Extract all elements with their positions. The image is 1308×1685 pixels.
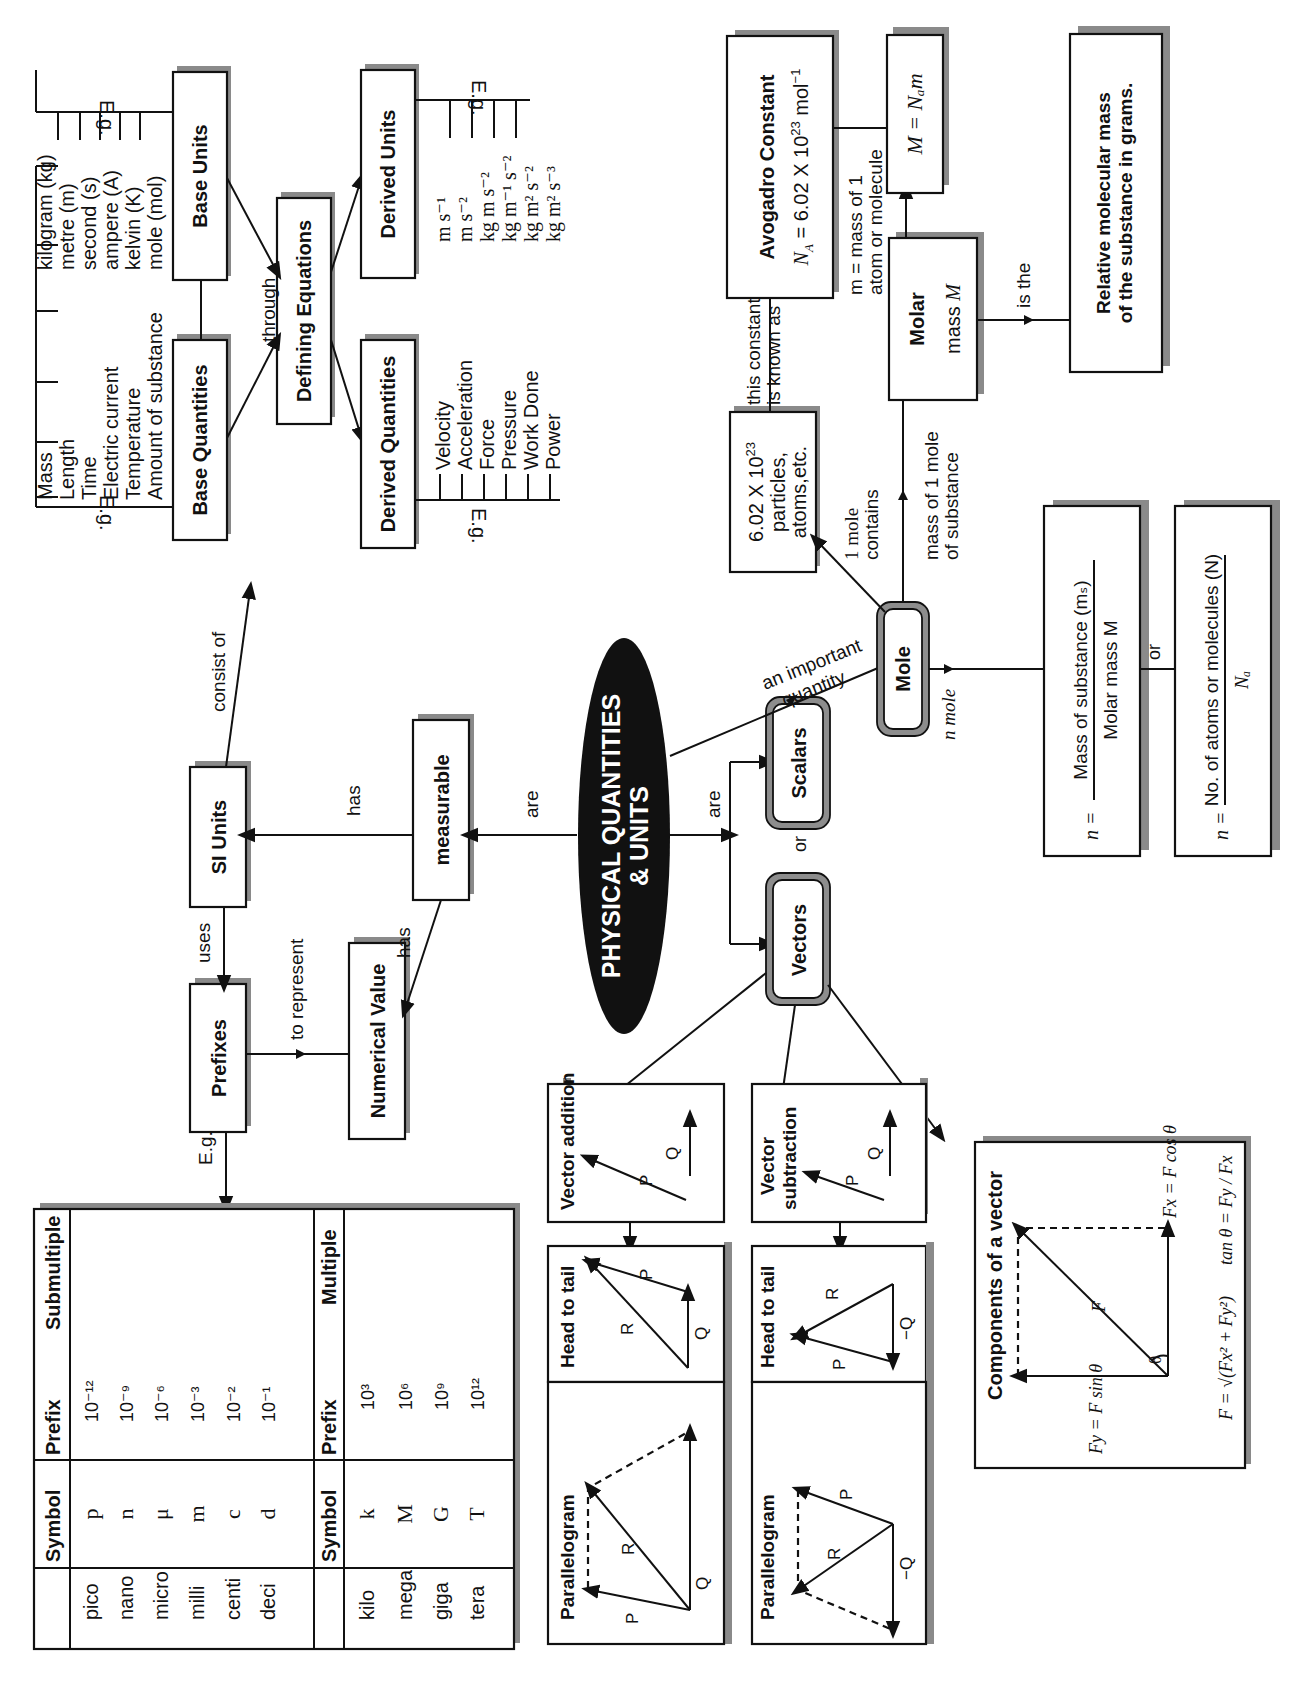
svg-text:Scalars: Scalars: [788, 727, 810, 798]
table-cell: c: [220, 1509, 245, 1519]
table-cell: μ: [148, 1508, 173, 1520]
svg-text:Derived Quantities: Derived Quantities: [377, 356, 399, 533]
svg-text:Parallelogram: Parallelogram: [557, 1494, 578, 1620]
svg-text:Vector: Vector: [757, 1136, 778, 1195]
central-title-line2: & UNITS: [625, 786, 653, 886]
edge-label-1-mole-1: 1 mole: [841, 508, 862, 560]
table-cell: deci: [257, 1583, 279, 1620]
node-measurable: measurable: [413, 714, 474, 900]
svg-text:Base Units: Base Units: [189, 124, 211, 227]
svg-text:M = Nₐm: M = Nₐm: [902, 73, 927, 155]
edge-label-or-formula: or: [1144, 644, 1164, 660]
svg-text:n mole: n mole: [938, 689, 959, 740]
svg-text:of the substance in grams.: of the substance in grams.: [1115, 83, 1136, 324]
table-cell: 10⁻³: [188, 1386, 208, 1422]
edge-label-m-mass-1: m = mass of 1: [845, 175, 866, 295]
svg-text:measurable: measurable: [431, 754, 453, 865]
edge-label-is-the: is the: [1013, 263, 1034, 308]
node-particles: 6.02 X 1023 particles, atoms,etc.: [730, 406, 820, 572]
edge-label-are-left: are: [521, 791, 542, 818]
node-numerical-value: Numerical Value: [349, 937, 410, 1139]
edge-label-or: or: [790, 836, 810, 852]
svg-text:Q: Q: [692, 1327, 711, 1340]
eg-label: E.g.: [96, 100, 118, 136]
example-ampere: ampere (A): [100, 170, 122, 270]
node-molar-formula: M = Nₐm: [887, 27, 949, 193]
svg-text:−Q: −Q: [897, 1317, 916, 1340]
svg-text:Numerical Value: Numerical Value: [367, 964, 389, 1119]
arrowhead: [296, 1049, 306, 1059]
edge-label-m-mass-2: atom or molecule: [865, 149, 886, 295]
svg-text:particles,: particles,: [767, 452, 789, 532]
edge-label-eg: E.g.: [195, 1131, 216, 1165]
central-title-line1: PHYSICAL QUANTITIES: [597, 694, 625, 978]
edge-label-consist-of: consist of: [208, 631, 229, 712]
node-derived-units: Derived Units: [361, 64, 419, 278]
svg-text:Head to tail: Head to tail: [757, 1266, 778, 1368]
svg-text:Vectors: Vectors: [788, 904, 810, 976]
svg-text:Components of a vector: Components of a vector: [984, 1171, 1006, 1400]
svg-text:atoms,etc.: atoms,etc.: [788, 446, 810, 538]
table-cell: mega: [394, 1569, 416, 1620]
svg-text:R: R: [619, 1543, 638, 1555]
node-prefixes: Prefixes: [190, 978, 251, 1132]
svg-text:6.02 X 1023: 6.02 X 1023: [743, 442, 767, 542]
arrowhead: [944, 664, 954, 674]
example-velocity: Velocity: [432, 401, 454, 470]
svg-text:Mole: Mole: [892, 646, 914, 692]
table-cell: 10³: [358, 1384, 378, 1410]
table-cell: 10⁹: [432, 1382, 452, 1410]
table-cell: 10⁻¹²: [82, 1380, 102, 1422]
node-relative-molecular-mass: Relative molecular mass of the substance…: [1070, 26, 1170, 372]
edge-base-units-defining: [227, 178, 277, 272]
svg-text:n =: n =: [1210, 812, 1232, 841]
table-header: Prefix: [42, 1399, 64, 1455]
edge-si-base: [226, 590, 250, 767]
edge-label-through: through: [258, 278, 279, 342]
example-force: Force: [476, 419, 498, 470]
derived-quantities-examples: E.g. Velocity Acceleration Force Pressur…: [415, 360, 564, 544]
svg-text:P: P: [843, 1175, 862, 1186]
table-header: Symbol: [42, 1490, 64, 1562]
svg-text:NA = 6.02 X 1023 mol−1: NA = 6.02 X 1023 mol−1: [788, 69, 816, 267]
panel-vector-subtraction: Vector subtraction P Q: [752, 1078, 928, 1222]
edge-defining-derived-units: [331, 180, 361, 272]
prefix-table: Prefix Symbol Submultiple Prefix Symbol …: [34, 1203, 520, 1649]
node-mole: Mole: [877, 602, 929, 736]
svg-text:P: P: [623, 1613, 642, 1624]
example-kelvin: kelvin (K): [122, 187, 144, 270]
table-header: Symbol: [318, 1490, 340, 1562]
svg-text:P: P: [637, 1269, 656, 1280]
svg-text:P: P: [637, 1175, 656, 1186]
node-scalars: Scalars: [766, 697, 830, 829]
table-cell: G: [428, 1506, 453, 1522]
table-cell: T: [464, 1507, 489, 1521]
table-cell: p: [78, 1509, 103, 1520]
svg-text:Relative molecular mass: Relative molecular mass: [1093, 92, 1114, 314]
example-power: Power: [542, 413, 564, 470]
example-time: Time: [78, 456, 100, 500]
concept-map: E.g. Mass Length Time Electric current T…: [0, 0, 1308, 1685]
edge-label-1-mole-2: contains: [861, 489, 882, 560]
central-topic: PHYSICAL QUANTITIES & UNITS: [578, 638, 670, 1034]
example-second: second (s): [78, 177, 100, 270]
svg-text:Fx = F cos θ: Fx = F cos θ: [1160, 1125, 1180, 1219]
table-cell: tera: [466, 1585, 488, 1620]
panel-vector-addition: Vector addition P Q: [548, 1073, 724, 1222]
table-cell: nano: [115, 1576, 137, 1621]
svg-text:Fy = F sin θ: Fy = F sin θ: [1086, 1364, 1106, 1455]
edge-label-has-numeric: has: [393, 927, 414, 958]
svg-text:R: R: [823, 1288, 842, 1300]
svg-text:Avogadro Constant: Avogadro Constant: [756, 74, 778, 259]
table-cell: kilo: [356, 1590, 378, 1620]
edge-label-uses: uses: [193, 923, 214, 963]
arrowhead: [1024, 315, 1034, 325]
table-cell: 10⁻⁹: [117, 1385, 137, 1422]
example-unit-work: kg m² s⁻²: [520, 166, 543, 242]
table-cell: M: [392, 1504, 417, 1524]
example-unit-pressure: kg m⁻¹ s⁻²: [498, 156, 521, 242]
panel-add-parallelogram: Parallelogram Q P R: [548, 1382, 724, 1644]
svg-text:Mass of substance (mₛ): Mass of substance (mₛ): [1070, 580, 1091, 779]
table-cell: n: [113, 1509, 138, 1520]
table-cell: milli: [186, 1586, 208, 1620]
